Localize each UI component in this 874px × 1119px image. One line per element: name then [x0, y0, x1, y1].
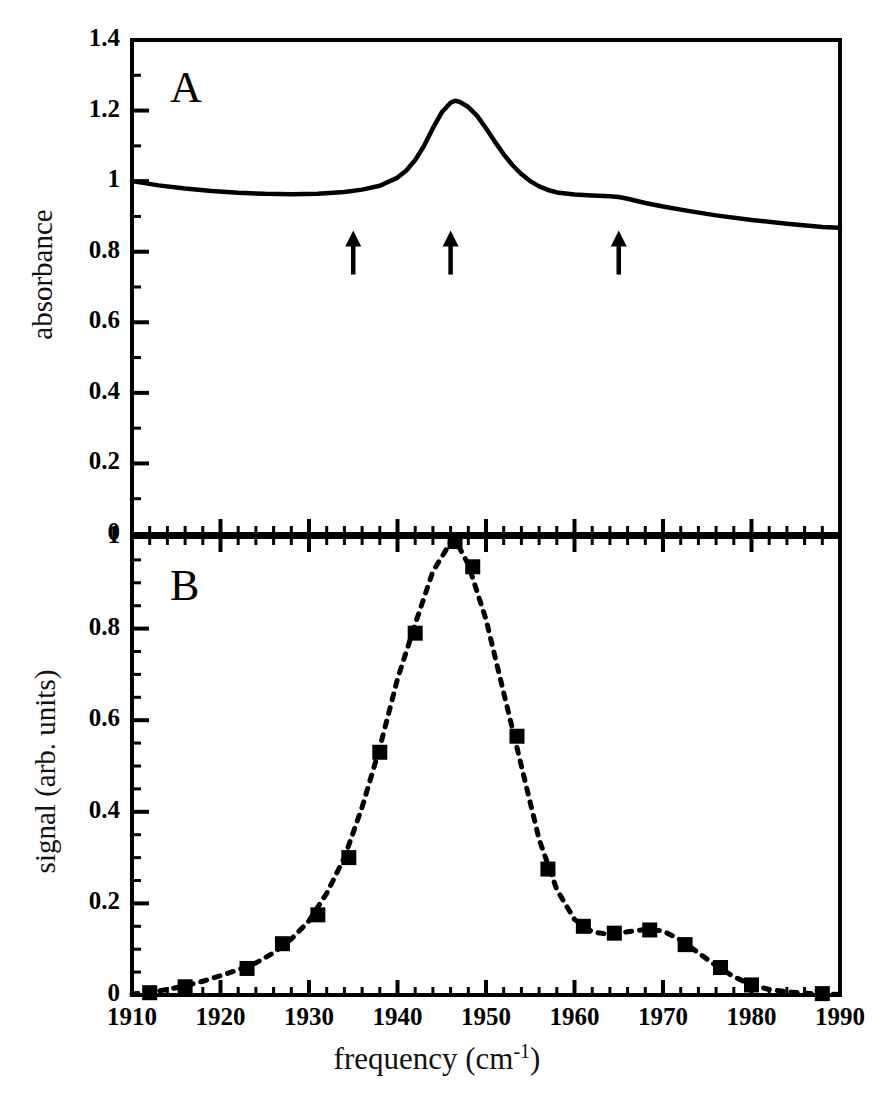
- panel-b-y-tick-label: 0.4: [10, 796, 120, 824]
- arrow-head: [611, 231, 627, 247]
- data-point-marker: [576, 919, 591, 934]
- absorbance-trace: [132, 101, 840, 228]
- data-point-marker: [310, 907, 325, 922]
- arrow-icon-1: [345, 231, 361, 275]
- data-point-marker: [509, 729, 524, 744]
- panel-b-y-tick-label: 0.2: [10, 887, 120, 915]
- x-tick-label: 1990: [780, 1003, 874, 1031]
- data-point-marker: [142, 985, 157, 1000]
- data-point-marker: [341, 850, 356, 865]
- panel-a-y-tick-label: 0.2: [10, 447, 120, 475]
- panel-b-y-axis-title: signal (arb. units): [29, 617, 62, 927]
- data-point-marker: [642, 922, 657, 937]
- x-axis-title-superscript: -1: [513, 1040, 530, 1062]
- data-point-marker: [240, 961, 255, 976]
- data-point-marker: [275, 936, 290, 951]
- panel-a-letter: A: [170, 62, 202, 113]
- x-axis-title-text: frequency (cm: [334, 1041, 514, 1076]
- figure-container: absorbance signal (arb. units) frequency…: [0, 0, 874, 1119]
- data-point-marker: [408, 626, 423, 641]
- panel-b-y-tick-label: 0.8: [10, 613, 120, 641]
- data-point-marker: [448, 534, 463, 549]
- panel-b-y-tick-label: 0.6: [10, 704, 120, 732]
- panel-a-y-tick-label: 0.6: [10, 306, 120, 334]
- panel-a-y-tick-label: 1.2: [10, 95, 120, 123]
- signal-fit-curve: [132, 539, 840, 994]
- arrow-head: [443, 231, 459, 247]
- arrow-head: [345, 231, 361, 247]
- panel-b-frame: [132, 537, 840, 995]
- panel-a-y-tick-label: 0.4: [10, 377, 120, 405]
- panel-a-y-tick-label: 1: [10, 165, 120, 193]
- x-axis-title-close: ): [530, 1041, 540, 1076]
- panel-b-plot: [132, 534, 840, 1001]
- panel-a-frame: [132, 40, 840, 534]
- data-point-marker: [744, 977, 759, 992]
- arrow-icon-3: [611, 231, 627, 275]
- panel-b-y-tick-label: 1: [10, 521, 120, 549]
- data-point-marker: [713, 960, 728, 975]
- plot-svg: [0, 0, 874, 1119]
- x-axis-title: frequency (cm-1): [0, 1040, 874, 1077]
- data-point-marker: [815, 986, 830, 1001]
- panel-a-y-tick-label: 1.4: [10, 24, 120, 52]
- panel-a-y-tick-label: 0.8: [10, 236, 120, 264]
- panel-b-letter: B: [170, 560, 199, 611]
- arrow-icon-2: [443, 231, 459, 275]
- panel-a-plot: [132, 40, 840, 534]
- data-point-marker: [540, 862, 555, 877]
- data-point-marker: [678, 937, 693, 952]
- data-point-marker: [465, 559, 480, 574]
- data-point-marker: [178, 979, 193, 994]
- data-point-marker: [607, 926, 622, 941]
- data-point-marker: [372, 745, 387, 760]
